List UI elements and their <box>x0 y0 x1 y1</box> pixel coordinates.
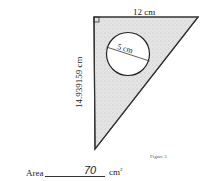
vertical-side-label: 14.939159 cm <box>74 57 84 109</box>
figure-caption: Figure 3 <box>150 154 167 159</box>
area-answer[interactable]: 70 <box>70 164 110 176</box>
top-side-label: 12 cm <box>133 7 155 17</box>
answer-blank-line <box>45 176 105 177</box>
area-label: Area <box>26 168 44 178</box>
triangle-diagram <box>0 0 217 181</box>
area-unit: cm2 <box>109 167 123 177</box>
